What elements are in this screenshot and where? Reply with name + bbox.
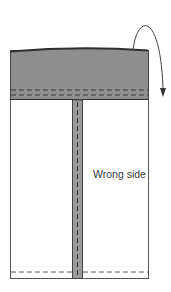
- sewing-diagram: [0, 0, 171, 292]
- folded-band: [10, 49, 148, 99]
- arrow-head-icon: [160, 88, 166, 97]
- wrong-side-label: Wrong side: [93, 168, 146, 180]
